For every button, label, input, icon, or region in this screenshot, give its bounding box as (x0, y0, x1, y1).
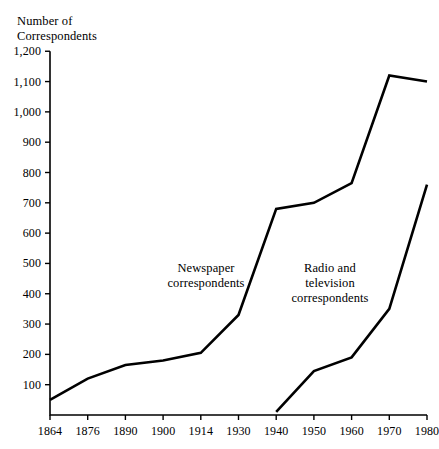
series-line-newspaper (50, 76, 427, 400)
axis-lines (50, 51, 427, 415)
axis-ticks (45, 51, 427, 420)
series-line-radio-tv (276, 185, 427, 412)
data-series-lines (50, 76, 427, 412)
